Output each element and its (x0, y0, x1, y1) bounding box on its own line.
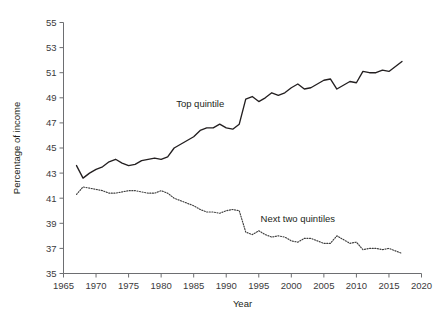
x-tick-label-2020: 2020 (411, 280, 432, 291)
series-label-next-two-quintiles: Next two quintiles (261, 213, 336, 224)
x-axis: 1965197019751980198519901995200020052010… (53, 274, 432, 309)
y-tick-label-49: 49 (46, 92, 57, 103)
y-tick-label-47: 47 (46, 117, 57, 128)
y-tick-label-55: 55 (46, 17, 57, 28)
chart-canvas: 3537394143454749515355 Percentage of inc… (0, 0, 448, 325)
x-tick-label-1975: 1975 (118, 280, 139, 291)
y-tick-label-41: 41 (46, 193, 57, 204)
x-tick-label-2000: 2000 (281, 280, 302, 291)
series-annotations: Top quintileNext two quintiles (176, 98, 335, 224)
x-axis-tick-labels: 1965197019751980198519901995200020052010… (53, 280, 432, 291)
x-tick-label-1965: 1965 (53, 280, 74, 291)
x-tick-label-1995: 1995 (248, 280, 269, 291)
x-tick-label-1990: 1990 (216, 280, 237, 291)
x-axis-ticks (64, 274, 422, 278)
series-line-next-two-quintiles (77, 187, 402, 254)
y-axis-ticks (60, 23, 64, 274)
x-tick-label-1985: 1985 (183, 280, 204, 291)
series-line-top-quintile (77, 61, 402, 178)
x-axis-title: Year (233, 298, 252, 309)
x-tick-label-1970: 1970 (85, 280, 106, 291)
y-tick-label-43: 43 (46, 168, 57, 179)
y-tick-label-35: 35 (46, 268, 57, 279)
y-tick-label-53: 53 (46, 42, 57, 53)
x-tick-label-1980: 1980 (151, 280, 172, 291)
x-tick-label-2015: 2015 (378, 280, 399, 291)
y-axis-title: Percentage of income (11, 102, 22, 194)
x-tick-label-2010: 2010 (346, 280, 367, 291)
y-tick-label-45: 45 (46, 142, 57, 153)
x-tick-label-2005: 2005 (313, 280, 334, 291)
y-tick-label-37: 37 (46, 243, 57, 254)
y-tick-label-51: 51 (46, 67, 57, 78)
data-series-group (77, 61, 402, 253)
income-distribution-chart: 3537394143454749515355 Percentage of inc… (0, 0, 448, 325)
y-axis-tick-labels: 3537394143454749515355 (46, 17, 57, 279)
series-label-top-quintile: Top quintile (176, 98, 224, 109)
y-axis: 3537394143454749515355 Percentage of inc… (11, 17, 64, 279)
y-tick-label-39: 39 (46, 218, 57, 229)
